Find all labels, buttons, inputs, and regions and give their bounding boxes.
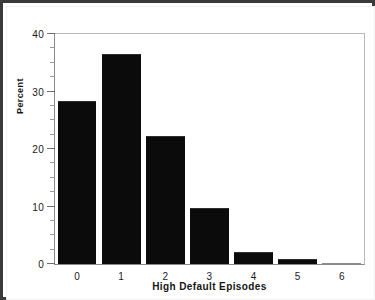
y-tick-40	[47, 33, 55, 34]
x-label-slot: 0	[55, 34, 99, 264]
y-tick-label: 20	[32, 144, 44, 155]
x-label-slot: 2	[143, 34, 187, 264]
y-tick-label: 30	[32, 86, 44, 97]
y-tick-label: 0	[38, 259, 44, 270]
y-tick-20	[47, 148, 55, 149]
y-tick-30	[47, 91, 55, 92]
x-axis-title: High Default Episodes	[54, 281, 365, 292]
y-tick-10	[47, 206, 55, 207]
x-label-slot: 6	[320, 34, 364, 264]
y-tick-0	[47, 263, 55, 264]
y-tick-label: 10	[32, 201, 44, 212]
x-label-slot: 5	[276, 34, 320, 264]
x-label-slot: 3	[187, 34, 231, 264]
figure-canvas: Percent 010203040 0123456 High Default E…	[6, 6, 375, 300]
x-label-slot: 1	[99, 34, 143, 264]
figure-outer-border: Percent 010203040 0123456 High Default E…	[0, 0, 375, 300]
y-tick-label: 40	[32, 29, 44, 40]
y-axis-title: Percent	[15, 78, 25, 114]
plot-area: 010203040 0123456	[54, 33, 365, 265]
x-label-slot: 4	[232, 34, 276, 264]
